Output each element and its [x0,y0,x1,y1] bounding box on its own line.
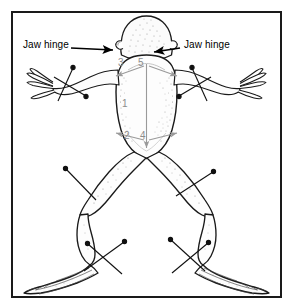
incision-number-3: 3 [118,58,124,68]
figure-border [11,11,282,298]
incision-number-2: 2 [124,131,130,141]
incision-number-1: 1 [122,99,128,109]
incision-number-5: 5 [138,58,144,68]
frog-dissection-figure: Jaw hinge Jaw hinge 1 2 3 4 5 [0,0,293,308]
incision-number-4: 4 [140,131,146,141]
label-jaw-hinge-left: Jaw hinge [23,39,69,50]
label-jaw-hinge-right: Jaw hinge [184,39,230,50]
